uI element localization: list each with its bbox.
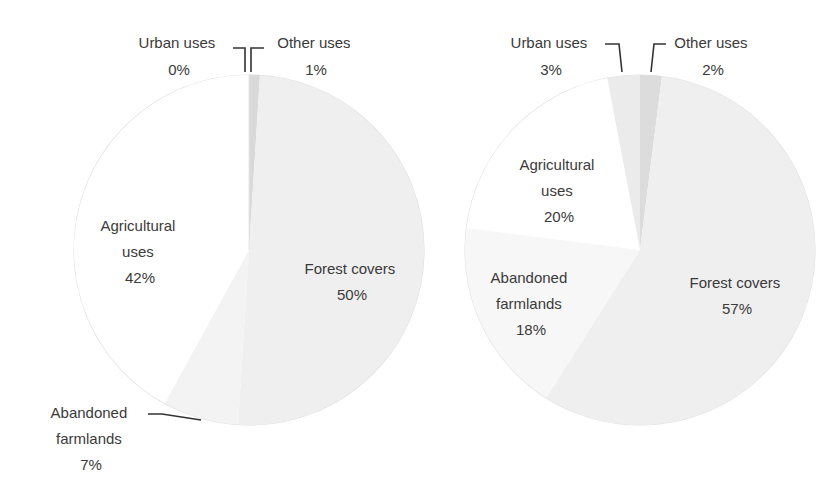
label-line: Abandoned <box>51 404 128 421</box>
label-other-uses-left: Other uses 1% <box>277 34 355 78</box>
label-value: 3% <box>540 61 562 78</box>
label-line: farmlands <box>496 295 562 312</box>
label-value: 2% <box>702 61 724 78</box>
label-value: 42% <box>125 269 155 286</box>
label-line: Agricultural <box>100 217 175 234</box>
label-value: 20% <box>544 208 574 225</box>
label-line: Other uses <box>674 34 747 51</box>
label-value: 57% <box>722 300 752 317</box>
label-other-uses-right: Other uses 2% <box>674 34 752 78</box>
label-value: 7% <box>80 456 102 473</box>
label-line: uses <box>122 243 154 260</box>
label-urban-uses-left: Urban uses 0% <box>139 34 220 78</box>
label-line: Forest covers <box>689 274 780 291</box>
label-line: farmlands <box>56 430 122 447</box>
leader-urban-uses-right <box>605 44 622 72</box>
leader-urban-uses-left <box>233 48 245 72</box>
leader-other-uses-left <box>251 48 264 72</box>
label-value: 18% <box>516 321 546 338</box>
label-line: uses <box>541 182 573 199</box>
pie-chart-right <box>465 75 815 425</box>
leader-other-uses-right <box>651 44 666 72</box>
label-urban-uses-right: Urban uses 3% <box>511 34 592 78</box>
label-abandoned-farmlands-left: Abandoned farmlands 7% <box>51 404 132 473</box>
label-line: Abandoned <box>491 269 568 286</box>
label-line: Other uses <box>277 34 350 51</box>
label-line: Forest covers <box>304 260 395 277</box>
label-line: Urban uses <box>511 34 588 51</box>
pie-slice-forest-covers <box>238 75 424 425</box>
pie-charts: Urban uses 0% Other uses 1% Agricultural… <box>0 0 837 499</box>
label-line: Agricultural <box>519 156 594 173</box>
label-value: 1% <box>305 61 327 78</box>
label-line: Urban uses <box>139 34 216 51</box>
label-value: 0% <box>168 61 190 78</box>
label-value: 50% <box>337 286 367 303</box>
